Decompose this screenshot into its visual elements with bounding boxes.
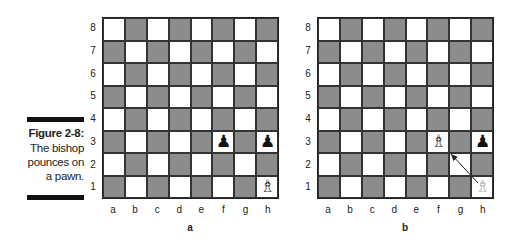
file-label: h <box>472 204 494 215</box>
caption-bottom-bar <box>27 195 84 200</box>
square-a6 <box>103 63 125 86</box>
square-b7 <box>125 41 147 64</box>
rank-label: 4 <box>88 113 98 124</box>
black-pawn-icon: ♟ <box>260 133 275 150</box>
square-a4 <box>103 108 125 131</box>
square-d1 <box>169 176 191 199</box>
black-pawn-icon: ♟ <box>475 133 490 150</box>
square-b6 <box>125 63 147 86</box>
square-b3 <box>125 131 147 154</box>
square-c3 <box>147 131 169 154</box>
square-f7 <box>212 41 234 64</box>
square-c7 <box>362 41 384 64</box>
square-a7 <box>318 41 340 64</box>
square-h7 <box>471 41 493 64</box>
square-f2 <box>427 153 449 176</box>
square-g8 <box>234 18 256 41</box>
square-f8 <box>212 18 234 41</box>
square-e1 <box>406 176 428 199</box>
caption-line: The bishop <box>0 142 84 154</box>
square-h8 <box>256 18 278 41</box>
square-c5 <box>147 86 169 109</box>
square-h8 <box>471 18 493 41</box>
square-h7 <box>256 41 278 64</box>
square-e5 <box>191 86 213 109</box>
square-g8 <box>449 18 471 41</box>
square-d2 <box>169 153 191 176</box>
file-label: g <box>450 204 472 215</box>
caption-line: a pawn. <box>0 170 84 182</box>
square-e6 <box>406 63 428 86</box>
file-label: c <box>146 204 168 215</box>
square-c6 <box>147 63 169 86</box>
square-h1: ♗ <box>256 176 278 199</box>
square-f8 <box>427 18 449 41</box>
square-c8 <box>147 18 169 41</box>
square-f3: ♗ <box>427 131 449 154</box>
square-d7 <box>384 41 406 64</box>
caption-top-bar <box>27 117 84 122</box>
square-a8 <box>318 18 340 41</box>
square-c2 <box>147 153 169 176</box>
square-g1 <box>234 176 256 199</box>
square-e1 <box>191 176 213 199</box>
rank-label: 1 <box>303 181 313 192</box>
square-g6 <box>234 63 256 86</box>
square-d3 <box>384 131 406 154</box>
square-e7 <box>406 41 428 64</box>
square-b7 <box>340 41 362 64</box>
square-e6 <box>191 63 213 86</box>
square-a1 <box>103 176 125 199</box>
rank-label: 2 <box>88 159 98 170</box>
square-d2 <box>384 153 406 176</box>
square-g7 <box>449 41 471 64</box>
file-label: a <box>102 204 124 215</box>
square-c1 <box>147 176 169 199</box>
square-c6 <box>362 63 384 86</box>
rank-label: 7 <box>303 45 313 56</box>
square-g4 <box>234 108 256 131</box>
square-f4 <box>427 108 449 131</box>
square-d3 <box>169 131 191 154</box>
square-e2 <box>191 153 213 176</box>
square-f5 <box>427 86 449 109</box>
square-e8 <box>406 18 428 41</box>
file-label: c <box>361 204 383 215</box>
rank-label: 7 <box>88 45 98 56</box>
square-h5 <box>471 86 493 109</box>
square-b4 <box>125 108 147 131</box>
square-b2 <box>340 153 362 176</box>
rank-label: 3 <box>303 136 313 147</box>
square-d7 <box>169 41 191 64</box>
square-a5 <box>318 86 340 109</box>
square-g4 <box>449 108 471 131</box>
square-e3 <box>406 131 428 154</box>
square-h4 <box>256 108 278 131</box>
square-c4 <box>147 108 169 131</box>
square-h4 <box>471 108 493 131</box>
file-label: e <box>405 204 427 215</box>
square-e8 <box>191 18 213 41</box>
square-f1 <box>212 176 234 199</box>
square-h3: ♟ <box>471 131 493 154</box>
square-b2 <box>125 153 147 176</box>
square-f7 <box>427 41 449 64</box>
square-d8 <box>384 18 406 41</box>
square-h2 <box>471 153 493 176</box>
square-d4 <box>169 108 191 131</box>
square-e4 <box>406 108 428 131</box>
rank-label: 6 <box>303 68 313 79</box>
rank-label: 3 <box>88 136 98 147</box>
black-pawn-icon: ♟ <box>216 133 231 150</box>
square-a7 <box>103 41 125 64</box>
square-b1 <box>125 176 147 199</box>
rank-label: 1 <box>88 181 98 192</box>
square-d6 <box>384 63 406 86</box>
square-b3 <box>340 131 362 154</box>
square-e5 <box>406 86 428 109</box>
square-c2 <box>362 153 384 176</box>
board-sublabel: b <box>395 222 415 233</box>
square-h1: ♗ <box>471 176 493 199</box>
square-c7 <box>147 41 169 64</box>
square-g5 <box>449 86 471 109</box>
